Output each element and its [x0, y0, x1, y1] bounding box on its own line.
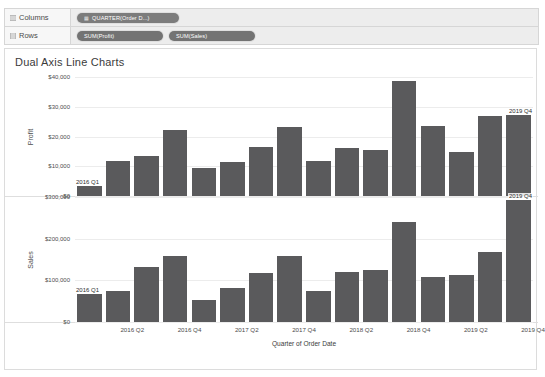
rows-shelf-label: Rows: [5, 27, 71, 44]
bar[interactable]: [306, 291, 331, 322]
bar-slot[interactable]: [161, 77, 190, 196]
bar[interactable]: [449, 275, 474, 323]
bar[interactable]: [134, 156, 159, 196]
bar-annotation: 2019 Q4: [508, 108, 533, 114]
bar-slot[interactable]: [333, 77, 362, 196]
bar[interactable]: [277, 127, 302, 196]
bar[interactable]: [77, 294, 102, 322]
bar-slot[interactable]: [218, 197, 247, 322]
bar-slot[interactable]: [390, 197, 419, 322]
x-tick-slot: 2016 Q2: [104, 326, 133, 338]
bar[interactable]: [335, 148, 360, 196]
bar[interactable]: [134, 267, 159, 322]
pill-quarter-order-date[interactable]: ▦ QUARTER(Order D...): [77, 13, 179, 23]
bar-slot[interactable]: [333, 197, 362, 322]
bar-slot[interactable]: 2016 Q1: [75, 77, 104, 196]
x-tick-slot: [419, 326, 448, 338]
x-tick-slot: [476, 326, 505, 338]
x-tick-slot: [304, 326, 333, 338]
bar-slot[interactable]: [304, 77, 333, 196]
x-tick-slot: [247, 326, 276, 338]
bar-slot[interactable]: [104, 77, 133, 196]
bar[interactable]: [506, 115, 531, 197]
bar[interactable]: [249, 273, 274, 322]
bar-slot[interactable]: [304, 197, 333, 322]
bar-slot[interactable]: [218, 77, 247, 196]
y-tick-label: $10,000: [48, 163, 70, 169]
bar-series-profit: 2016 Q12019 Q4: [75, 77, 533, 196]
bar-slot[interactable]: [132, 77, 161, 196]
rows-label-text: Rows: [19, 31, 38, 40]
bar[interactable]: [421, 277, 446, 322]
bar-slot[interactable]: 2019 Q4: [504, 197, 533, 322]
x-axis-ticks: 2016 Q22016 Q42017 Q22017 Q42018 Q22018 …: [75, 326, 533, 338]
x-tick-slot: [75, 326, 104, 338]
x-tick-slot: [361, 326, 390, 338]
view-card: Dual Axis Line Charts Profit $0$10,000$2…: [4, 48, 537, 370]
bar-slot[interactable]: [161, 197, 190, 322]
bar-slot[interactable]: [247, 77, 276, 196]
bar[interactable]: [163, 130, 188, 196]
charts-container: Profit $0$10,000$20,000$30,000$40,000 20…: [5, 77, 538, 369]
bar-slot[interactable]: 2016 Q1: [75, 197, 104, 322]
pill-sum-sales[interactable]: SUM(Sales): [169, 31, 255, 41]
x-tick-slot: 2019 Q4: [504, 326, 533, 338]
x-tick-slot: 2018 Q2: [333, 326, 362, 338]
bar-slot[interactable]: [476, 77, 505, 196]
bar-slot[interactable]: [361, 197, 390, 322]
columns-drop-zone[interactable]: ▦ QUARTER(Order D...): [71, 9, 538, 26]
bar[interactable]: [277, 256, 302, 322]
pill-sum-profit[interactable]: SUM(Profit): [77, 31, 163, 41]
bar[interactable]: [192, 168, 217, 196]
bar-slot[interactable]: [275, 77, 304, 196]
bar-slot[interactable]: [419, 77, 448, 196]
grid-icon: [10, 15, 16, 21]
bar-slot[interactable]: [447, 77, 476, 196]
bar[interactable]: [478, 252, 503, 322]
bar[interactable]: [421, 126, 446, 196]
bar[interactable]: [306, 161, 331, 196]
bar-slot[interactable]: [390, 77, 419, 196]
rows-drop-zone[interactable]: SUM(Profit) SUM(Sales): [71, 27, 538, 44]
bar[interactable]: [106, 161, 131, 196]
x-tick-slot: 2017 Q4: [275, 326, 304, 338]
y-tick-label: $20,000: [48, 134, 70, 140]
bar-slot[interactable]: [104, 197, 133, 322]
bar[interactable]: [363, 270, 388, 322]
rows-shelf[interactable]: Rows SUM(Profit) SUM(Sales): [4, 26, 539, 45]
bar-slot[interactable]: [476, 197, 505, 322]
x-axis: 2016 Q22016 Q42017 Q22017 Q42018 Q22018 …: [5, 323, 538, 363]
bar-slot[interactable]: [447, 197, 476, 322]
bar-slot[interactable]: [247, 197, 276, 322]
bar-slot[interactable]: [190, 77, 219, 196]
bar[interactable]: [106, 291, 131, 322]
x-tick-slot: [190, 326, 219, 338]
pill-sum-profit-label: SUM(Profit): [84, 33, 114, 39]
bar[interactable]: [335, 272, 360, 322]
bar[interactable]: [192, 300, 217, 323]
y-tick-label: $200,000: [45, 236, 70, 242]
bar-slot[interactable]: [419, 197, 448, 322]
bar[interactable]: [163, 256, 188, 322]
bar-series-sales: 2016 Q12019 Q4: [75, 197, 533, 322]
bar[interactable]: [506, 200, 531, 322]
chart-panel-profit: Profit $0$10,000$20,000$30,000$40,000 20…: [5, 77, 538, 197]
bar[interactable]: [220, 162, 245, 197]
bar[interactable]: [478, 116, 503, 196]
y-tick-label: $30,000: [48, 104, 70, 110]
bar[interactable]: [449, 152, 474, 196]
bar[interactable]: [249, 147, 274, 196]
x-tick-slot: 2019 Q2: [447, 326, 476, 338]
bar-slot[interactable]: [361, 77, 390, 196]
bar[interactable]: [392, 222, 417, 322]
bar[interactable]: [77, 186, 102, 196]
bar-slot[interactable]: [190, 197, 219, 322]
bar[interactable]: [392, 81, 417, 196]
bar-slot[interactable]: [275, 197, 304, 322]
bar-slot[interactable]: [132, 197, 161, 322]
bar[interactable]: [220, 288, 245, 322]
columns-shelf[interactable]: Columns ▦ QUARTER(Order D...): [4, 8, 539, 26]
bar-slot[interactable]: 2019 Q4: [504, 77, 533, 196]
bar[interactable]: [363, 150, 388, 196]
